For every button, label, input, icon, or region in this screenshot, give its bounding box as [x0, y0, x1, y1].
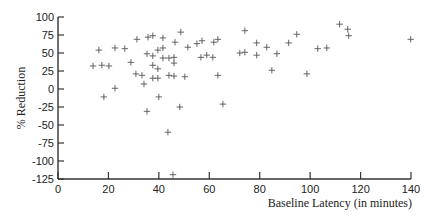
plus-marker — [171, 54, 177, 60]
plus-marker — [101, 94, 107, 100]
y-tick-label: -25 — [38, 101, 54, 113]
plus-marker — [128, 59, 134, 65]
plus-marker — [315, 45, 321, 51]
y-tick-label: 0 — [48, 83, 54, 95]
plus-marker — [253, 40, 259, 46]
x-tick-label: 100 — [301, 183, 319, 195]
plus-marker — [408, 36, 414, 42]
plus-marker — [242, 27, 248, 33]
x-tick-label: 140 — [402, 183, 420, 195]
plus-marker — [304, 71, 310, 77]
x-tick-label: 20 — [102, 183, 114, 195]
plus-marker — [112, 45, 118, 51]
plus-marker — [171, 73, 177, 79]
plus-marker — [345, 26, 351, 32]
plus-marker — [294, 31, 300, 37]
plus-marker — [171, 60, 177, 66]
plus-marker — [346, 33, 352, 39]
plus-marker — [139, 72, 145, 78]
plus-marker — [185, 44, 191, 50]
plus-marker — [144, 51, 150, 57]
plus-marker — [155, 75, 161, 81]
plus-marker — [112, 85, 118, 91]
plus-marker — [150, 53, 156, 59]
plus-marker — [166, 72, 172, 78]
plus-marker — [269, 67, 275, 73]
plus-marker — [199, 38, 205, 44]
plus-marker — [198, 54, 204, 60]
plus-marker — [122, 45, 128, 51]
plus-marker — [134, 36, 140, 42]
plus-marker — [204, 52, 210, 58]
plus-marker — [237, 50, 243, 56]
x-tick-label: 0 — [55, 183, 61, 195]
plus-marker — [90, 63, 96, 69]
y-axis: 1007550250-25-50-75-100-125 — [32, 11, 64, 185]
x-tick-label: 80 — [254, 183, 266, 195]
plus-marker — [264, 44, 270, 50]
y-tick-label: -50 — [38, 119, 54, 131]
plus-marker — [215, 36, 221, 42]
plus-marker — [150, 33, 156, 39]
plus-marker — [106, 63, 112, 69]
plus-marker — [150, 62, 156, 68]
plus-marker — [170, 171, 176, 177]
y-tick-label: 75 — [42, 29, 54, 41]
y-tick-label: -100 — [32, 155, 54, 167]
plus-marker — [99, 62, 105, 68]
x-tick-label: 120 — [351, 183, 369, 195]
x-tick-label: 60 — [203, 183, 215, 195]
plus-marker — [165, 129, 171, 135]
x-axis: 020406080100120140 — [55, 172, 420, 195]
plus-marker — [274, 51, 280, 57]
y-tick-label: -75 — [38, 137, 54, 149]
x-tick-label: 40 — [153, 183, 165, 195]
plus-marker — [242, 49, 248, 55]
plus-marker — [160, 55, 166, 61]
x-axis-title: Baseline Latency (in minutes) — [268, 196, 412, 210]
plus-marker — [210, 54, 216, 60]
plus-marker — [141, 81, 147, 87]
plus-marker — [215, 72, 221, 78]
plus-marker — [160, 35, 166, 41]
plus-marker — [194, 40, 200, 46]
plus-marker — [156, 94, 162, 100]
scatter-chart: 1007550250-25-50-75-100-125 020406080100… — [0, 0, 435, 219]
plus-marker — [144, 108, 150, 114]
y-tick-label: 50 — [42, 47, 54, 59]
plus-marker — [253, 52, 259, 58]
plus-marker — [133, 71, 139, 77]
y-tick-label: 25 — [42, 65, 54, 77]
y-axis-title: % Reduction — [14, 67, 28, 129]
y-tick-label: 100 — [36, 11, 54, 23]
data-points — [90, 21, 414, 178]
plus-marker — [172, 39, 178, 45]
plus-marker — [145, 34, 151, 40]
plus-marker — [220, 101, 226, 107]
plus-marker — [178, 29, 184, 35]
plus-marker — [166, 55, 172, 61]
plus-marker — [96, 47, 102, 53]
plus-marker — [211, 39, 217, 45]
plus-marker — [336, 21, 342, 27]
plus-marker — [286, 40, 292, 46]
plus-marker — [155, 66, 161, 72]
plus-marker — [324, 45, 330, 51]
plus-marker — [182, 74, 188, 80]
y-tick-label: -125 — [32, 173, 54, 185]
plus-marker — [177, 104, 183, 110]
